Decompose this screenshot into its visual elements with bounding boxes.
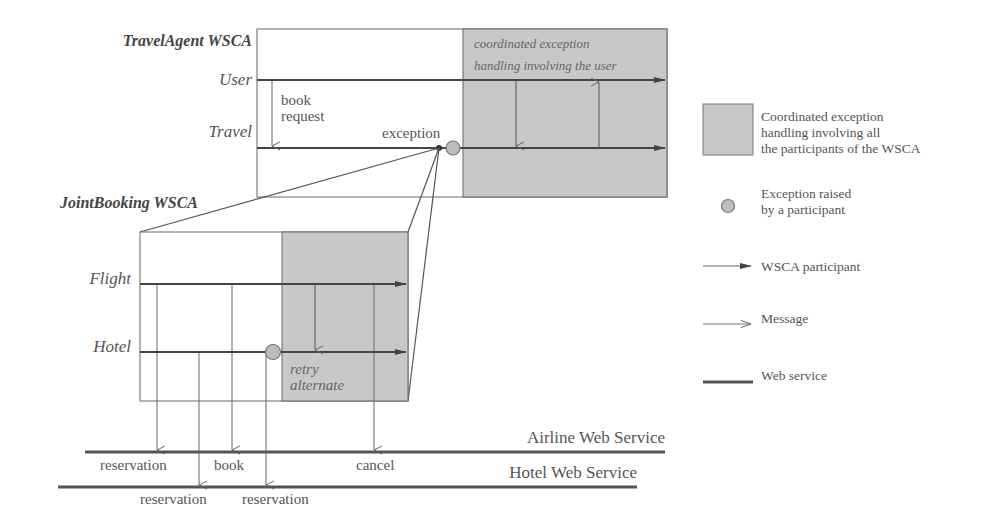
- hotel-exception-circle-icon: [266, 345, 281, 360]
- top-shaded-note-2: handling involving the user: [474, 58, 618, 73]
- hotel-msg-reservation-2: reservation: [242, 491, 309, 507]
- legend-message-text: Message: [761, 311, 808, 326]
- travelagent-title: TravelAgent WSCA: [123, 32, 253, 50]
- bottom-shaded-note-2: alternate: [290, 377, 344, 393]
- participant-label-user: User: [219, 70, 252, 89]
- hotel-web-service-label: Hotel Web Service: [509, 463, 637, 482]
- web-services: Airline Web Service Hotel Web Service re…: [58, 428, 665, 507]
- legend: Coordinated exception handling involving…: [703, 104, 921, 383]
- wsca-diagram: TravelAgent WSCA User Travel book reques…: [0, 0, 997, 519]
- legend-shaded-swatch: [703, 104, 753, 155]
- travelagent-wsca: TravelAgent WSCA User Travel book reques…: [123, 29, 667, 197]
- book-request-label-2: request: [281, 108, 325, 124]
- exception-circle-icon: [446, 141, 460, 155]
- bottom-shaded-note-1: retry: [290, 361, 319, 377]
- jointbooking-title: JointBooking WSCA: [59, 194, 198, 212]
- airline-msg-book: book: [214, 457, 245, 473]
- airline-msg-cancel: cancel: [356, 457, 394, 473]
- legend-participant-text: WSCA participant: [761, 259, 861, 274]
- travelagent-shaded-region: [463, 29, 667, 197]
- legend-shaded-text-2: handling involving all: [761, 125, 880, 140]
- legend-web-service-text: Web service: [761, 368, 827, 383]
- hotel-msg-reservation-1: reservation: [140, 491, 207, 507]
- legend-exception-text-2: by a participant: [761, 202, 845, 217]
- top-shaded-note-1: coordinated exception: [474, 36, 589, 51]
- participant-label-hotel: Hotel: [92, 337, 131, 356]
- legend-exception-text-1: Exception raised: [761, 186, 852, 201]
- legend-exception-circle-icon: [722, 200, 735, 213]
- airline-msg-reservation: reservation: [100, 457, 167, 473]
- airline-web-service-label: Airline Web Service: [527, 428, 665, 447]
- participant-label-travel: Travel: [209, 122, 253, 141]
- participant-label-flight: Flight: [88, 269, 132, 288]
- legend-shaded-text-1: Coordinated exception: [761, 109, 884, 124]
- exception-label: exception: [382, 125, 441, 141]
- book-request-label-1: book: [281, 92, 312, 108]
- legend-shaded-text-3: the participants of the WSCA: [761, 141, 921, 156]
- jointbooking-wsca: JointBooking WSCA Flight Hotel retry alt…: [59, 194, 408, 485]
